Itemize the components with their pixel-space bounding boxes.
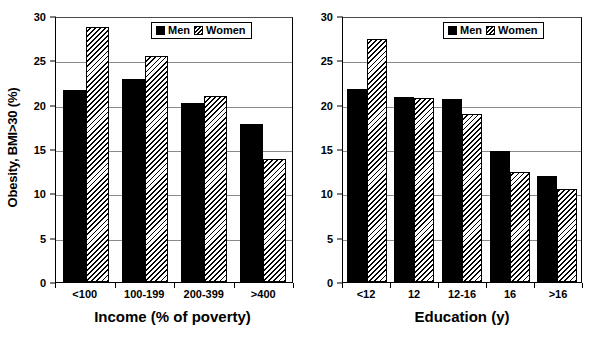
legend-education: Men Women — [443, 22, 544, 39]
x-axis-tick-mark — [390, 283, 391, 288]
bar-women-200-399 — [204, 96, 227, 282]
x-axis-tick-label: <12 — [342, 288, 390, 300]
bar-group — [240, 18, 286, 282]
x-axis-tick-label: >16 — [534, 288, 582, 300]
y-axis-tick-mark — [337, 105, 343, 106]
bar-groups-income — [56, 18, 292, 282]
bar-women-<12 — [367, 39, 387, 282]
x-axis-tick-mark — [115, 283, 116, 288]
legend-item-men: Men — [448, 25, 482, 36]
legend-label-men: Men — [168, 25, 190, 36]
legend-label-women: Women — [206, 25, 246, 36]
x-axis-tick-label: 12-16 — [438, 288, 486, 300]
y-axis-tick-label: 10 — [296, 188, 342, 200]
x-axis-tick-mark — [582, 283, 583, 288]
bar-group — [394, 18, 434, 282]
bar-men-16 — [490, 151, 510, 282]
legend-item-women: Women — [486, 25, 538, 36]
y-axis-tick-label: 30 — [9, 11, 55, 23]
bar-men-100-199 — [122, 79, 145, 282]
bar-group — [122, 18, 168, 282]
bar-women-12 — [414, 98, 434, 282]
x-axis-tick-mark — [486, 283, 487, 288]
y-axis-tick-label: 15 — [9, 144, 55, 156]
x-axis-tick-mark — [293, 283, 294, 288]
bar-group — [490, 18, 530, 282]
x-axis-tick-mark — [534, 283, 535, 288]
x-axis-tick-label: 200-399 — [174, 288, 234, 300]
y-axis-tick-mark — [337, 238, 343, 239]
y-axis-tick-label: 20 — [296, 100, 342, 112]
x-axis-tick-mark — [234, 283, 235, 288]
bar-groups-education — [343, 18, 581, 282]
y-axis-tick-label: 5 — [296, 233, 342, 245]
y-axis-tick-mark — [337, 150, 343, 151]
bar-women->16 — [557, 189, 577, 282]
bar-men-<100 — [63, 90, 86, 282]
x-axis-tick-mark — [342, 283, 343, 288]
y-axis-tick-label: 30 — [296, 11, 342, 23]
x-axis-tick-mark — [438, 283, 439, 288]
bar-men->16 — [537, 176, 557, 282]
y-axis-tick-mark — [50, 150, 56, 151]
y-axis-tick-label: 25 — [9, 55, 55, 67]
x-axis-tick-label: 100-199 — [115, 288, 175, 300]
panel-education: Men Women 302520151050 <121212-1616>16 E… — [300, 0, 591, 337]
panel-income: Obesity, BMI>30 (%) Men Women 3025201510… — [0, 0, 300, 337]
legend-swatch-women-icon — [486, 26, 495, 35]
y-axis-tick-label: 0 — [9, 277, 55, 289]
bar-men->400 — [240, 124, 263, 282]
y-axis-tick-mark — [337, 17, 343, 18]
legend-swatch-men-icon — [448, 26, 457, 35]
bar-group — [63, 18, 109, 282]
bar-men-12 — [394, 97, 414, 282]
x-axis-label-income: Income (% of poverty) — [40, 308, 305, 325]
legend-item-men: Men — [156, 25, 190, 36]
x-axis-tick-label: >400 — [234, 288, 294, 300]
x-axis-tick-label: <100 — [55, 288, 115, 300]
bar-women-12-16 — [462, 114, 482, 282]
legend-label-men: Men — [460, 25, 482, 36]
bar-group — [442, 18, 482, 282]
bar-group — [181, 18, 227, 282]
y-axis-tick-label: 5 — [9, 233, 55, 245]
y-axis-tick-mark — [50, 17, 56, 18]
legend-swatch-women-icon — [194, 26, 203, 35]
y-axis-tick-mark — [50, 105, 56, 106]
y-axis-tick-label: 15 — [296, 144, 342, 156]
legend-income: Men Women — [151, 22, 252, 39]
bar-men-<12 — [347, 89, 367, 282]
y-axis-tick-mark — [337, 194, 343, 195]
y-axis-tick-label: 25 — [296, 55, 342, 67]
y-axis-tick-mark — [50, 238, 56, 239]
bar-group — [537, 18, 577, 282]
y-axis-tick-label: 10 — [9, 188, 55, 200]
y-axis-tick-mark — [50, 194, 56, 195]
y-axis-tick-mark — [50, 61, 56, 62]
legend-item-women: Women — [194, 25, 246, 36]
x-axis-ticks-education: <121212-1616>16 — [342, 288, 582, 300]
bar-women-100-199 — [145, 56, 168, 282]
x-axis-ticks-income: <100100-199200-399>400 — [55, 288, 293, 300]
y-axis-tick-mark — [337, 61, 343, 62]
bar-group — [347, 18, 387, 282]
x-axis-tick-mark — [174, 283, 175, 288]
y-axis-tick-label: 20 — [9, 100, 55, 112]
bar-women-<100 — [86, 27, 109, 282]
legend-label-women: Women — [498, 25, 538, 36]
figure-two-panel-bar-charts: Obesity, BMI>30 (%) Men Women 3025201510… — [0, 0, 591, 337]
legend-swatch-men-icon — [156, 26, 165, 35]
x-axis-tick-label: 16 — [486, 288, 534, 300]
y-axis-tick-label: 0 — [296, 277, 342, 289]
bar-men-200-399 — [181, 103, 204, 282]
bar-women-16 — [510, 172, 530, 282]
x-axis-label-education: Education (y) — [342, 308, 582, 325]
x-axis-tick-mark — [55, 283, 56, 288]
plot-area-income: Men Women — [55, 17, 293, 283]
bar-women->400 — [263, 159, 286, 282]
bar-men-12-16 — [442, 99, 462, 282]
plot-area-education: Men Women — [342, 17, 582, 283]
x-axis-tick-label: 12 — [390, 288, 438, 300]
